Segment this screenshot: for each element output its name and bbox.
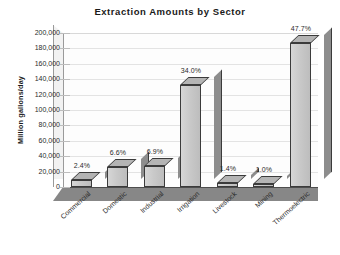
bar-top-face xyxy=(180,77,210,85)
y-axis-ticks: 200,000180,000160,000140,000120,000100,0… xyxy=(14,33,60,187)
y-axis-tick-label: 60,000 xyxy=(16,137,60,144)
bar-top-face xyxy=(71,172,101,180)
bar-slot[interactable]: 47.7% xyxy=(288,33,324,187)
bar-slot[interactable]: 1.4% xyxy=(215,33,251,187)
bar-value-label: 1.0% xyxy=(242,166,286,173)
bar-value-label: 2.4% xyxy=(60,162,104,169)
y-axis-tick-mark xyxy=(60,187,70,188)
chart-title: Extraction Amounts by Sector xyxy=(0,6,340,17)
bar-value-label: 34.0% xyxy=(169,67,213,74)
y-axis-tick-label: 100,000 xyxy=(16,106,60,113)
bar-series: 2.4%6.6%6.9%34.0%1.4%1.0%47.7% xyxy=(63,33,318,187)
bar-slot[interactable]: 6.6% xyxy=(105,33,141,187)
bar-thermoelectric[interactable] xyxy=(290,43,311,187)
bar-value-label: 47.7% xyxy=(279,25,323,32)
y-axis-tick-label: 160,000 xyxy=(16,60,60,67)
bar-slot[interactable]: 34.0% xyxy=(178,33,214,187)
y-axis-tick-label: 180,000 xyxy=(16,44,60,51)
y-axis-tick-label: 200,000 xyxy=(16,29,60,36)
bar-side-face xyxy=(324,28,332,179)
bar-livestock[interactable] xyxy=(217,183,238,187)
bar-slot[interactable]: 2.4% xyxy=(69,33,105,187)
bar-slot[interactable]: 6.9% xyxy=(142,33,178,187)
y-axis-tick-label: 80,000 xyxy=(16,121,60,128)
bar-irrigation[interactable] xyxy=(180,85,201,187)
chart-container: Extraction Amounts by Sector Million gal… xyxy=(0,0,340,255)
bar-value-label: 6.9% xyxy=(133,148,177,155)
bar-slot[interactable]: 1.0% xyxy=(251,33,287,187)
y-axis-tick-label: 140,000 xyxy=(16,75,60,82)
y-axis-tick-label: 40,000 xyxy=(16,152,60,159)
y-axis-tick-label: 0 xyxy=(16,183,60,190)
y-axis-tick-label: 20,000 xyxy=(16,168,60,175)
bar-top-face xyxy=(290,35,320,43)
bar-top-face xyxy=(107,159,137,167)
x-axis-labels: CommercialDomesticIndustrialIrrigationLi… xyxy=(63,190,340,252)
y-axis-tick-label: 120,000 xyxy=(16,91,60,98)
bar-top-face xyxy=(144,158,174,166)
bar-commercial[interactable] xyxy=(71,180,92,187)
